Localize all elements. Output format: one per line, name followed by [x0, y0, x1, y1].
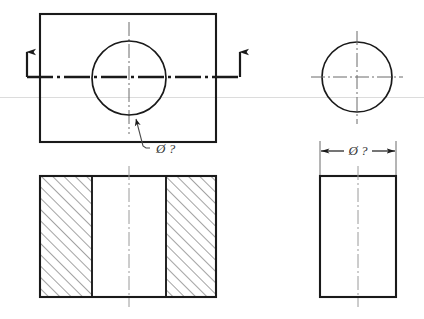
diameter-leader-line — [136, 119, 150, 148]
technical-drawing-canvas: Ø ? Ø ? — [0, 0, 424, 319]
side-section-view — [320, 141, 396, 307]
section-hatch-left — [41, 177, 92, 296]
section-hatch-right — [166, 177, 215, 296]
section-view — [40, 166, 216, 307]
side-view-circle — [311, 31, 403, 124]
side-view-diameter-dimension-label: Ø ? — [347, 143, 368, 158]
front-view-diameter-label: Ø ? — [155, 141, 176, 156]
front-view — [27, 14, 240, 148]
drawing-sheet: Ø ? Ø ? — [0, 0, 424, 319]
